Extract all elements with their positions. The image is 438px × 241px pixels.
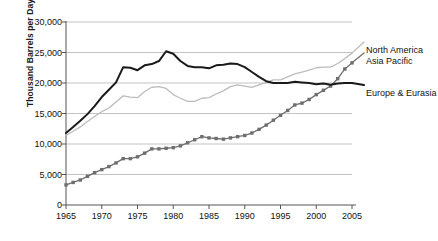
series-line: [66, 53, 352, 135]
x-axis-tick-label: 1990: [235, 211, 255, 221]
series-marker: [157, 147, 160, 150]
series-label: North America: [366, 45, 423, 55]
series-marker: [79, 178, 82, 181]
series-marker: [279, 114, 282, 117]
chart-container: Thousand Barrels per Day 05,00010,00015,…: [0, 0, 438, 241]
series-marker: [150, 147, 153, 150]
series-leader-line: [352, 83, 364, 85]
series-marker: [136, 155, 139, 158]
y-axis-tick-label: 25,000: [34, 48, 62, 58]
series-label: Asia Pacific: [366, 56, 413, 66]
series-marker: [122, 157, 125, 160]
x-axis-tick-label: 1995: [270, 211, 290, 221]
x-axis-tick-label: 2000: [306, 211, 326, 221]
series-marker: [250, 131, 253, 134]
series-marker: [207, 136, 210, 139]
series-marker: [214, 137, 217, 140]
x-axis-tick-label: 1985: [199, 211, 219, 221]
series-marker: [229, 136, 232, 139]
series-marker: [93, 171, 96, 174]
y-axis-tick-label: 10,000: [34, 139, 62, 149]
series-marker: [129, 157, 132, 160]
series-marker: [179, 144, 182, 147]
series-leader-line: [352, 42, 364, 53]
series-marker: [100, 168, 103, 171]
series-marker: [86, 175, 89, 178]
series-marker: [322, 89, 325, 92]
series-marker: [286, 109, 289, 112]
x-axis-tick-label: 1975: [127, 211, 147, 221]
series-marker: [186, 141, 189, 144]
x-axis-tick-label: 1965: [56, 211, 76, 221]
series-marker: [272, 119, 275, 122]
y-axis-tick-label: 0: [57, 200, 62, 210]
y-axis-tick-label: 5,000: [39, 170, 62, 180]
series-marker: [265, 123, 268, 126]
series-marker: [315, 93, 318, 96]
series-marker: [307, 98, 310, 101]
y-axis-tick-label: 20,000: [34, 78, 62, 88]
series-marker: [343, 67, 346, 70]
series-marker: [243, 134, 246, 137]
series-leader-line: [352, 53, 364, 63]
series-marker: [71, 181, 74, 184]
series-marker: [143, 151, 146, 154]
series-marker: [293, 103, 296, 106]
series-line: [66, 51, 352, 133]
series-marker: [236, 135, 239, 138]
x-axis-tick-label: 1980: [163, 211, 183, 221]
series-marker: [164, 147, 167, 150]
series-marker: [200, 135, 203, 138]
x-axis-tick-label: 2005: [342, 211, 362, 221]
series-marker: [193, 138, 196, 141]
series-marker: [300, 101, 303, 104]
series-marker: [107, 165, 110, 168]
y-axis-tick-label: 15,000: [34, 109, 62, 119]
plot-area: [0, 0, 438, 241]
x-axis-tick-label: 1970: [92, 211, 112, 221]
series-marker: [222, 137, 225, 140]
y-axis-tick-labels: 05,00010,00015,00020,00025,00030,000: [18, 0, 62, 241]
series-marker: [172, 146, 175, 149]
series-label: Europe & Eurasia: [366, 88, 437, 98]
series-marker: [64, 183, 67, 186]
y-axis-tick-label: 30,000: [34, 17, 62, 27]
series-marker: [336, 77, 339, 80]
series-marker: [257, 128, 260, 131]
series-marker: [114, 161, 117, 164]
